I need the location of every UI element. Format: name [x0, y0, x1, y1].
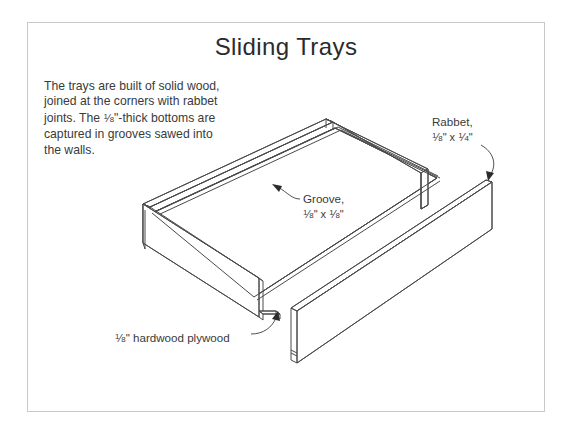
rabbet-callout-name: Rabbet, — [432, 115, 473, 129]
tray-isometric-drawing — [0, 0, 572, 434]
groove-callout-label: Groove, 1⁄8" x 1⁄8" — [303, 192, 344, 223]
illustration-page: Sliding Trays The trays are built of sol… — [0, 0, 572, 434]
plywood-callout-text: " hardwood plywood — [126, 331, 230, 344]
rabbet-leader-line — [481, 145, 494, 181]
plywood-callout-label: 1⁄8" hardwood plywood — [115, 330, 230, 347]
rabbet-callout-dimension: 1⁄8" x 1⁄4" — [432, 129, 473, 146]
groove-callout-dimension: 1⁄8" x 1⁄8" — [303, 206, 344, 223]
rabbet-callout-label: Rabbet, 1⁄8" x 1⁄4" — [432, 115, 473, 146]
plywood-thickness-fraction: 1⁄8 — [115, 332, 126, 344]
groove-callout-name: Groove, — [303, 192, 344, 206]
